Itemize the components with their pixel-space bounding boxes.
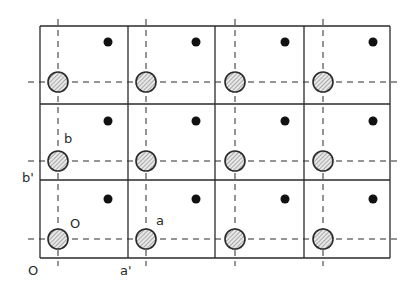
hatched-circle-icon bbox=[313, 72, 333, 92]
black-dot-icon bbox=[192, 38, 201, 47]
hatched-circle-icon bbox=[48, 72, 68, 92]
hatched-circle-icon bbox=[136, 151, 156, 171]
lattice-diagram: b b' O a O a' bbox=[0, 0, 414, 294]
black-dot-icon bbox=[192, 195, 201, 204]
label-a: a bbox=[156, 214, 164, 227]
black-dot-icon bbox=[369, 195, 378, 204]
interstitial-dots bbox=[104, 38, 378, 204]
lattice-points bbox=[48, 72, 333, 249]
label-o-circle: O bbox=[70, 217, 80, 230]
hatched-circle-icon bbox=[313, 151, 333, 171]
black-dot-icon bbox=[369, 38, 378, 47]
hatched-circle-icon bbox=[225, 229, 245, 249]
black-dot-icon bbox=[281, 38, 290, 47]
label-b: b bbox=[64, 132, 72, 145]
label-a-prime: a' bbox=[120, 264, 132, 277]
black-dot-icon bbox=[192, 117, 201, 126]
hatched-circle-icon bbox=[48, 151, 68, 171]
black-dot-icon bbox=[281, 117, 290, 126]
lattice-axes bbox=[28, 19, 398, 266]
black-dot-icon bbox=[281, 195, 290, 204]
hatched-circle-icon bbox=[225, 151, 245, 171]
lattice-svg bbox=[0, 0, 414, 294]
hatched-circle-icon bbox=[313, 229, 333, 249]
hatched-circle-icon bbox=[136, 72, 156, 92]
label-o-origin: O bbox=[28, 264, 38, 277]
black-dot-icon bbox=[369, 117, 378, 126]
hatched-circle-icon bbox=[225, 72, 245, 92]
cell-boundaries bbox=[40, 26, 390, 258]
hatched-circle-icon bbox=[48, 229, 68, 249]
hatched-circle-icon bbox=[136, 229, 156, 249]
black-dot-icon bbox=[104, 38, 113, 47]
label-b-prime: b' bbox=[22, 171, 34, 184]
black-dot-icon bbox=[104, 117, 113, 126]
black-dot-icon bbox=[104, 195, 113, 204]
